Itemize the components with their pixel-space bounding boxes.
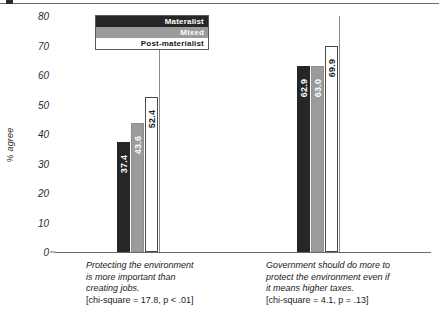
caption-line: is more important than (86, 272, 236, 284)
y-tick-label-10: 10 (38, 217, 49, 228)
y-tick-label-80: 80 (38, 11, 49, 22)
bar-value-label: 43.6 (133, 136, 143, 155)
y-tick-label-70: 70 (38, 40, 49, 51)
chi-square-annotation: [chi-square = 4.1, p = .13] (266, 295, 431, 307)
legend-label-post-materialist: Post-materialist (141, 39, 204, 48)
y-axis-label: % agree (5, 109, 15, 181)
bar-group-2: 62.963.069.9 (297, 46, 339, 252)
bar-value-label: 62.9 (299, 79, 309, 98)
bar-materalist-group-1: 37.4 (117, 142, 130, 252)
y-tick-label-60: 60 (38, 70, 49, 81)
legend-label-materalist: Materalist (165, 17, 204, 26)
y-tick-label-0: 0 (43, 247, 49, 258)
caption-line: creating jobs. (86, 283, 236, 295)
legend-item-post-materialist: Post-materialist (96, 38, 208, 49)
caption-line: it means higher taxes. (266, 283, 431, 295)
legend-item-mixed: Mixed (96, 27, 208, 38)
legend-item-materalist: Materalist (96, 16, 208, 27)
top-divider-rule (0, 3, 439, 4)
caption-line: protect the environment even if (266, 272, 431, 284)
y-tick-label-50: 50 (38, 99, 49, 110)
bar-value-label: 37.4 (119, 154, 129, 173)
caption-line: Government should do more to (266, 260, 431, 272)
x-axis-caption-2: Government should do more toprotect the … (266, 260, 431, 306)
bar-postmaterialist-group-2: 69.9 (325, 46, 338, 252)
bar-group-1: 37.443.652.4 (117, 97, 159, 252)
bar-mixed-group-2: 63.0 (311, 66, 324, 252)
y-tick-label-40: 40 (38, 129, 49, 140)
bar-postmaterialist-group-1: 52.4 (145, 97, 158, 252)
group-separator-2 (339, 16, 340, 252)
bar-materalist-group-2: 62.9 (297, 66, 310, 252)
group-separator-1 (159, 16, 160, 252)
bar-mixed-group-1: 43.6 (131, 123, 144, 252)
y-tick-label-30: 30 (38, 158, 49, 169)
legend-label-mixed: Mixed (180, 28, 204, 37)
top-left-mark (6, 0, 13, 4)
x-axis-caption-1: Protecting the environmentis more import… (86, 260, 236, 306)
bar-value-label: 52.4 (147, 110, 157, 129)
plot-area: 80706050403020100 37.443.652.4 62.963.06… (55, 16, 431, 252)
caption-line: Protecting the environment (86, 260, 236, 272)
x-axis-baseline (55, 252, 431, 253)
bar-value-label: 69.9 (327, 58, 337, 77)
bar-value-label: 63.0 (313, 79, 323, 98)
chi-square-annotation: [chi-square = 17.8, p < .01] (86, 295, 236, 307)
chart-figure: % agree 80706050403020100 37.443.652.4 6… (0, 0, 439, 314)
y-tick-label-20: 20 (38, 188, 49, 199)
chart-legend: Materalist Mixed Post-materialist (95, 15, 209, 50)
